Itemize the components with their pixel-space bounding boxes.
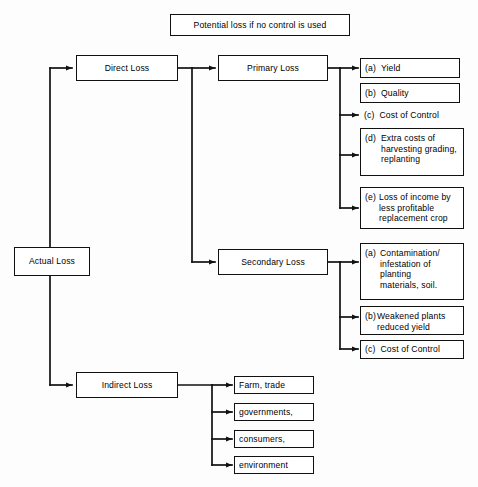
direct-loss-label: Direct Loss	[105, 63, 150, 74]
primary-item-a-key: (a)	[365, 63, 376, 74]
indirect-loss-label: Indirect Loss	[102, 380, 153, 391]
title-label: Potential loss if no control is used	[194, 20, 327, 31]
node-primary-loss: Primary Loss	[218, 55, 328, 81]
indirect-item-consumers: consumers,	[234, 430, 314, 448]
secondary-item-c-key: (c)	[365, 344, 375, 355]
secondary-item-b: (b) Weakened plants reduced yield	[360, 306, 464, 335]
primary-item-b: (b) Quality	[360, 83, 460, 103]
secondary-item-a: (a) Contamination/ infestation of planti…	[360, 243, 464, 300]
node-indirect-loss: Indirect Loss	[76, 372, 178, 398]
actual-loss-label: Actual Loss	[29, 256, 75, 267]
indirect-item-2-label: consumers,	[239, 434, 285, 445]
primary-item-d-text: Extra costs of harvesting grading, repla…	[381, 133, 460, 165]
primary-item-c-text: Cost of Control	[379, 110, 470, 121]
primary-item-a-text: Yield	[381, 63, 459, 74]
primary-item-c: (c) Cost of Control	[360, 107, 470, 124]
secondary-loss-label: Secondary Loss	[241, 257, 305, 268]
secondary-item-b-key: (b)	[365, 311, 376, 322]
indirect-item-0-label: Farm, trade	[239, 380, 285, 391]
primary-item-e-text: Loss of income by less profitable replac…	[379, 192, 460, 224]
primary-item-e: (e) Loss of income by less profitable re…	[360, 187, 464, 229]
node-direct-loss: Direct Loss	[76, 55, 178, 81]
indirect-item-governments: governments,	[234, 403, 314, 421]
secondary-item-c-text: Cost of Control	[380, 344, 463, 355]
indirect-item-environment: environment	[234, 456, 314, 474]
flowchart-diagram: Potential loss if no control is used Act…	[0, 0, 478, 487]
indirect-item-farm-trade: Farm, trade	[234, 376, 314, 394]
primary-item-a: (a) Yield	[360, 58, 460, 78]
secondary-item-a-text: Contamination/ infestation of planting m…	[380, 248, 460, 290]
primary-item-b-key: (b)	[365, 88, 376, 99]
primary-item-d: (d) Extra costs of harvesting grading, r…	[360, 128, 464, 176]
title-box: Potential loss if no control is used	[170, 14, 350, 36]
primary-item-b-text: Quality	[381, 88, 459, 99]
secondary-item-a-key: (a)	[365, 248, 376, 259]
primary-loss-label: Primary Loss	[247, 63, 299, 74]
node-actual-loss: Actual Loss	[14, 247, 90, 276]
secondary-item-b-text: Weakened plants reduced yield	[377, 311, 460, 332]
primary-item-c-key: (c)	[364, 110, 374, 121]
indirect-item-3-label: environment	[239, 460, 288, 471]
node-secondary-loss: Secondary Loss	[218, 249, 328, 275]
primary-item-e-key: (e)	[365, 192, 376, 203]
secondary-item-c: (c) Cost of Control	[360, 340, 464, 359]
indirect-item-1-label: governments,	[239, 407, 293, 418]
primary-item-d-key: (d)	[365, 133, 376, 144]
